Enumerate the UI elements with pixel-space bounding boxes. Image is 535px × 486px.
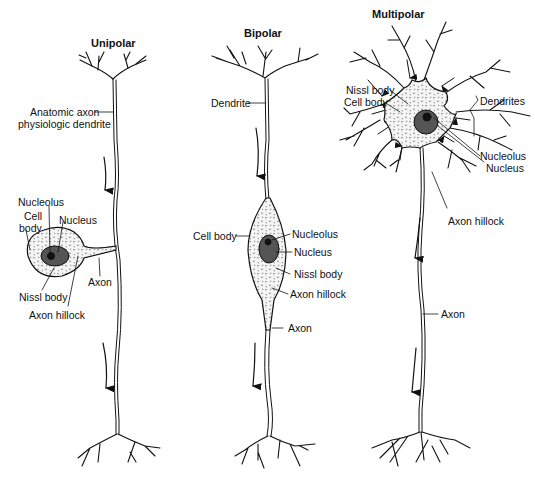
bipolar-nucleus-label: Nucleus bbox=[294, 246, 332, 258]
unipolar-top-branches bbox=[79, 52, 146, 79]
unipolar-process-label: Anatomic axon bbox=[30, 106, 99, 118]
unipolar-title: Unipolar bbox=[91, 37, 136, 49]
multipolar-axon-hillock-label: Axon hillock bbox=[448, 215, 504, 227]
bipolar-flow-arrow-bottom bbox=[253, 343, 255, 386]
unipolar-cell-body-label: Cell bbox=[24, 210, 42, 222]
multipolar-cell-body-label: Cell body bbox=[344, 96, 388, 108]
unipolar-nucleolus bbox=[48, 253, 55, 260]
unipolar-axon-hillock-label: Axon hillock bbox=[29, 309, 85, 321]
bipolar-flow-arrow-top bbox=[256, 128, 258, 176]
bipolar-nissl-body-label: Nissl body bbox=[294, 268, 342, 280]
unipolar-nucleolus-label: Nucleolus bbox=[18, 196, 64, 208]
multipolar-axon-label: Axon bbox=[441, 308, 465, 320]
neuron-diagram bbox=[0, 0, 535, 486]
bipolar-cell-body-label: Cell body bbox=[193, 230, 237, 242]
unipolar-nissl-body-label: Nissl body bbox=[19, 291, 67, 303]
bipolar-top-branches bbox=[212, 46, 318, 78]
unipolar-process-label-line2: physiologic dendrite bbox=[18, 118, 111, 130]
multipolar-nucleolus bbox=[423, 113, 431, 121]
multipolar-nissl-body-label: Nissl body bbox=[346, 84, 394, 96]
bipolar-nucleolus-label: Nucleolus bbox=[292, 228, 338, 240]
unipolar-nucleus-label: Nucleus bbox=[59, 214, 97, 226]
multipolar-terminal-branches bbox=[372, 432, 470, 466]
unipolar-axon-label: Axon bbox=[88, 276, 112, 288]
bipolar-axon-hillock-label: Axon hillock bbox=[290, 288, 346, 300]
unipolar-terminal-branches bbox=[78, 434, 160, 466]
multipolar-dendrites-label: Dendrites bbox=[480, 95, 525, 107]
bipolar-terminal-branches bbox=[235, 436, 315, 468]
multipolar-nucleolus-label: Nucleolus bbox=[480, 150, 526, 162]
multipolar-title: Multipolar bbox=[372, 8, 425, 20]
multipolar-flow-arrow-bottom bbox=[412, 348, 416, 392]
bipolar-title: Bipolar bbox=[244, 27, 282, 39]
unipolar-cell-body-label-line2: body bbox=[19, 222, 42, 234]
bipolar-cell-body bbox=[248, 198, 286, 330]
multipolar-nucleus-label: Nucleus bbox=[486, 162, 524, 174]
bipolar-axon-label: Axon bbox=[288, 322, 312, 334]
bipolar-dendrite-label: Dendrite bbox=[211, 97, 251, 109]
unipolar-cell-body bbox=[27, 227, 116, 276]
unipolar-flow-arrow-bottom bbox=[103, 343, 107, 388]
bipolar-nucleolus bbox=[265, 239, 271, 245]
unipolar-flow-arrow-top bbox=[104, 157, 106, 190]
